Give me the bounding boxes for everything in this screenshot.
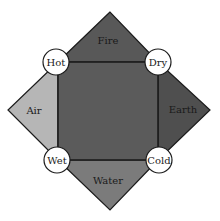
hot-label: Hot: [47, 57, 66, 68]
hot-node: Hot: [43, 49, 69, 75]
dry-label: Dry: [149, 57, 168, 68]
four-elements-diagram: Fire Earth Water Air Hot Dry Wet Cold: [0, 0, 220, 221]
water-label: Water: [93, 175, 123, 186]
dry-node: Dry: [145, 49, 171, 75]
cold-label: Cold: [147, 155, 171, 166]
air-label: Air: [25, 105, 41, 116]
earth-label: Earth: [169, 104, 198, 115]
center-square: [58, 62, 158, 160]
wet-node: Wet: [44, 147, 70, 173]
cold-node: Cold: [146, 147, 172, 173]
fire-label: Fire: [98, 35, 119, 46]
wet-label: Wet: [47, 155, 66, 166]
